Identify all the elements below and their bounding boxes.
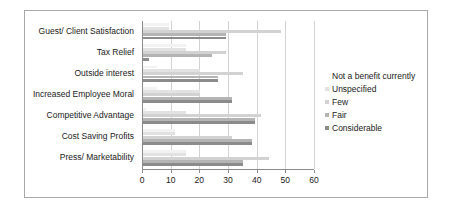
- bar-group: [142, 42, 314, 63]
- bar-group: [142, 106, 314, 127]
- bar: [143, 142, 252, 145]
- bar-group: [142, 21, 314, 42]
- bar-group: [142, 63, 314, 84]
- legend-swatch: [325, 74, 329, 78]
- x-axis-tick: [314, 170, 315, 173]
- legend-label: Few: [332, 97, 348, 107]
- legend-item: Considerable: [325, 121, 425, 134]
- legend-item: Unspecified: [325, 82, 425, 95]
- legend-swatch: [325, 87, 329, 91]
- x-axis-tick-label: 30: [223, 175, 232, 185]
- legend-swatch: [325, 100, 329, 104]
- x-axis-tick: [171, 170, 172, 173]
- category-label: Increased Employee Moral: [24, 90, 134, 99]
- x-axis-tick: [285, 170, 286, 173]
- legend-item: Fair: [325, 108, 425, 121]
- legend-swatch: [325, 113, 329, 117]
- bar: [143, 54, 212, 57]
- x-axis-tick: [257, 170, 258, 173]
- bar: [143, 163, 243, 166]
- bar: [143, 121, 255, 124]
- plot-area: [142, 21, 314, 169]
- legend-item: Few: [325, 95, 425, 108]
- legend-item: Not a benefit currently: [325, 69, 425, 82]
- bar: [143, 79, 218, 82]
- chart-frame: Guest/ Client SatisfactionTax ReliefOuts…: [24, 10, 428, 198]
- x-axis-tick-labels: 0102030405060: [142, 175, 322, 187]
- value-axis-line: [142, 21, 143, 169]
- category-label: Tax Relief: [24, 48, 134, 57]
- x-axis-tick-label: 50: [281, 175, 290, 185]
- category-label: Competitive Advantage: [24, 111, 134, 120]
- category-label: Outside interest: [24, 69, 134, 78]
- x-axis-tick-label: 20: [195, 175, 204, 185]
- x-axis-tick-label: 40: [252, 175, 261, 185]
- legend-swatch: [325, 126, 329, 130]
- x-axis-tick-label: 0: [140, 175, 145, 185]
- chart-legend: Not a benefit currentlyUnspecifiedFewFai…: [325, 69, 425, 134]
- x-axis-tick: [228, 170, 229, 173]
- bar-group: [142, 127, 314, 148]
- category-label: Guest/ Client Satisfaction: [24, 27, 134, 36]
- x-axis-tick-label: 10: [166, 175, 175, 185]
- legend-label: Considerable: [332, 123, 382, 133]
- x-axis-tick: [142, 170, 143, 173]
- category-axis-labels: Guest/ Client SatisfactionTax ReliefOuts…: [25, 21, 138, 169]
- x-axis-tick-label: 60: [309, 175, 318, 185]
- legend-label: Not a benefit currently: [332, 71, 415, 81]
- category-label: Cost Saving Profits: [24, 132, 134, 141]
- bar: [143, 100, 232, 103]
- bar-group: [142, 148, 314, 169]
- x-axis-tick: [199, 170, 200, 173]
- bar: [143, 58, 149, 61]
- bar: [143, 37, 226, 40]
- category-label: Press/ Marketability: [24, 153, 134, 162]
- legend-label: Unspecified: [332, 84, 376, 94]
- legend-label: Fair: [332, 110, 347, 120]
- bar-group: [142, 84, 314, 105]
- gridline: [314, 21, 315, 169]
